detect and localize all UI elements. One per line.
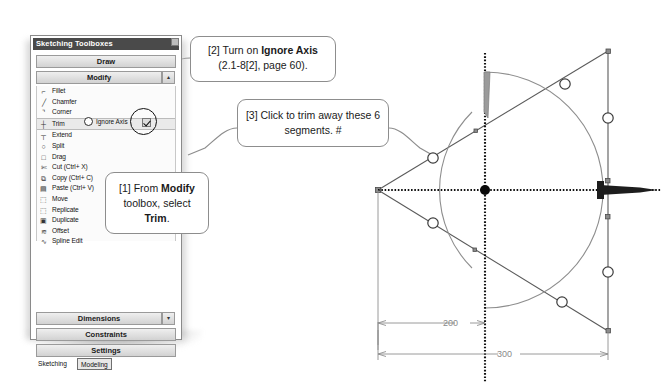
line-lower[interactable] xyxy=(378,190,608,331)
highlight-circle-trim xyxy=(84,117,93,126)
fillet-icon: ⌐ xyxy=(39,87,48,96)
section-dimensions[interactable]: Dimensions xyxy=(36,312,162,325)
tool-item-fillet[interactable]: ⌐ Fillet xyxy=(37,86,175,97)
screenshot-root: 200 300 Sketching Toolboxes Draw Modify … xyxy=(0,0,661,383)
tool-label: Offset xyxy=(52,227,69,234)
dimension-200[interactable]: 200 xyxy=(378,318,485,350)
dimension-300-label: 300 xyxy=(497,349,512,359)
trim-icon: ┼ xyxy=(39,120,48,129)
handle-right-upper[interactable] xyxy=(603,113,613,123)
scissors-icon: ✄ xyxy=(39,163,48,172)
tool-label: Drag xyxy=(52,153,66,160)
origin-point xyxy=(480,185,490,195)
dimension-200-label: 200 xyxy=(443,318,458,328)
tool-label: Duplicate xyxy=(52,216,79,223)
callout-1-mid: toolbox, select xyxy=(123,197,190,209)
tool-item-extend[interactable]: ┬ Extend xyxy=(37,130,175,141)
intersection-marker-right-upper xyxy=(606,179,610,183)
intersection-marker-right-lower xyxy=(606,215,610,219)
handle-upper-right[interactable] xyxy=(560,79,570,89)
tool-label: Replicate xyxy=(52,206,79,213)
paste-icon: ▤ xyxy=(39,184,48,193)
callout-1-suffix: . xyxy=(167,212,170,224)
leader-line-callout3-left xyxy=(188,128,237,155)
callout-1: [1] From Modify toolbox, select Trim. xyxy=(105,172,209,234)
callout-2-bold: Ignore Axis xyxy=(261,44,318,56)
tab-sketching[interactable]: Sketching xyxy=(35,358,70,370)
callout-1-prefix: [1] From xyxy=(119,182,161,194)
dimension-300[interactable]: 300 xyxy=(378,190,608,360)
panel-title: Sketching Toolboxes xyxy=(33,38,179,50)
copy-icon: ⧉ xyxy=(39,174,48,183)
handle-lower-right[interactable] xyxy=(557,297,567,307)
callout-3-text: [3] Click to trim away these 6 segments.… xyxy=(246,109,380,136)
tool-item-drag[interactable]: □ Drag xyxy=(37,152,175,163)
section-constraints[interactable]: Constraints xyxy=(36,328,176,341)
section-settings[interactable]: Settings xyxy=(36,344,176,357)
intersection-marker-ul2 xyxy=(474,129,477,132)
tool-label: Spline Edit xyxy=(52,237,82,244)
panel-close-icon[interactable] xyxy=(171,38,179,46)
cursor-vertical xyxy=(484,72,490,118)
callout-1-bold-trim: Trim xyxy=(144,212,166,224)
tool-label: Paste (Ctrl+ V) xyxy=(52,184,94,191)
replicate-icon: ⬚ xyxy=(39,206,48,215)
vertex-top-right xyxy=(606,49,610,53)
panel-tabs: Sketching Modeling xyxy=(35,358,180,370)
tool-label: Extend xyxy=(52,131,72,138)
tool-label: Cut (Ctrl+ X) xyxy=(52,163,88,170)
move-icon: ⬚ xyxy=(39,195,48,204)
cursor-horizontal xyxy=(597,181,657,199)
callout-2: [2] Turn on Ignore Axis (2.1-8[2], page … xyxy=(190,36,336,82)
highlight-circle-ignore-axis xyxy=(130,108,157,135)
callout-3: [3] Click to trim away these 6 segments.… xyxy=(237,99,389,147)
tool-label: Trim xyxy=(52,120,65,127)
section-dimensions-expand-icon[interactable]: ▾ xyxy=(162,312,175,325)
tab-modeling[interactable]: Modeling xyxy=(77,358,112,370)
handle-lower-left[interactable] xyxy=(428,218,438,228)
offset-icon: ≋ xyxy=(39,227,48,236)
tool-label: Move xyxy=(52,195,68,202)
chamfer-icon: ╱ xyxy=(39,98,48,107)
intersection-marker-ll1 xyxy=(473,248,476,251)
callout-1-bold-modify: Modify xyxy=(161,182,195,194)
spline-edit-icon: ∿ xyxy=(39,237,48,246)
handle-right-lower[interactable] xyxy=(603,267,613,277)
split-icon: ○ xyxy=(39,142,48,151)
arc-large-lower[interactable] xyxy=(485,190,603,308)
tool-label: Corner xyxy=(52,108,72,115)
tool-label: Copy (Ctrl+ C) xyxy=(52,174,93,181)
section-modify[interactable]: Modify xyxy=(36,71,162,84)
section-draw[interactable]: Draw xyxy=(36,55,176,68)
callout-2-suffix: (2.1-8[2], page 60). xyxy=(218,59,307,71)
handle-upper-left[interactable] xyxy=(428,153,438,163)
tool-item-spline-edit[interactable]: ∿ Spline Edit xyxy=(37,236,175,247)
duplicate-icon: ▣ xyxy=(39,216,48,225)
section-modify-collapse-icon[interactable]: ▴ xyxy=(162,71,175,84)
tool-item-split[interactable]: ○ Split xyxy=(37,141,175,152)
tool-label: Split xyxy=(52,142,64,149)
tool-label: Fillet xyxy=(52,87,65,94)
drag-icon: □ xyxy=(39,153,48,162)
corner-icon: ⌝ xyxy=(39,108,48,117)
leader-line-callout3-right xyxy=(389,128,434,156)
ignore-axis-label: Ignore Axis xyxy=(96,116,128,128)
extend-icon: ┬ xyxy=(39,131,48,140)
tool-item-chamfer[interactable]: ╱ Chamfer xyxy=(37,97,175,108)
tool-label: Chamfer xyxy=(52,98,77,105)
callout-2-prefix: [2] Turn on xyxy=(208,44,261,56)
